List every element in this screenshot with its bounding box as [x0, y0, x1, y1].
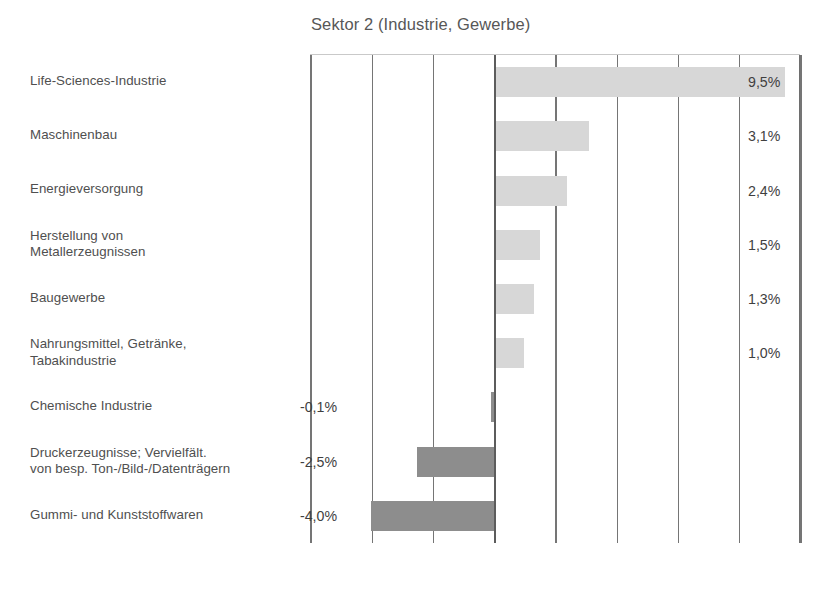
category-label-line-2: Tabakindustrie — [30, 353, 298, 370]
value-label: -0,1% — [300, 399, 337, 415]
zero-axis-line — [494, 55, 496, 543]
category-label-line-1: Maschinenbau — [30, 127, 117, 142]
value-label: -2,5% — [300, 454, 337, 470]
value-label: 1,0% — [748, 345, 780, 361]
category-label-line-1: Druckerzeugnisse; Vervielfält. — [30, 445, 207, 460]
chart-row: Herstellung vonMetallerzeugnissen1,5% — [0, 218, 835, 272]
bar-positive — [494, 338, 525, 368]
value-label: 3,1% — [748, 128, 780, 144]
category-label-line-2: Metallerzeugnissen — [30, 244, 298, 261]
chart-title: Sektor 2 (Industrie, Gewerbe) — [311, 15, 530, 34]
chart-row: Maschinenbau3,1% — [0, 109, 835, 163]
category-label-line-1: Baugewerbe — [30, 290, 105, 305]
category-label: Maschinenbau — [30, 127, 298, 144]
category-label-line-1: Energieversorgung — [30, 181, 143, 196]
category-label-line-1: Herstellung von — [30, 228, 123, 243]
bar-negative — [417, 447, 494, 477]
category-label: Herstellung vonMetallerzeugnissen — [30, 228, 298, 261]
value-label: -4,0% — [300, 508, 337, 524]
bar-negative — [371, 501, 494, 531]
chart-row: Druckerzeugnisse; Vervielfält.von besp. … — [0, 435, 835, 489]
chart-row: Energieversorgung2,4% — [0, 163, 835, 217]
category-label-line-1: Life-Sciences-Industrie — [30, 73, 166, 88]
chart-row: Baugewerbe1,3% — [0, 272, 835, 326]
value-label: 1,5% — [748, 237, 780, 253]
chart-row: Life-Sciences-Industrie9,5% — [0, 55, 835, 109]
category-label: Druckerzeugnisse; Vervielfält.von besp. … — [30, 445, 298, 478]
value-label: 2,4% — [748, 183, 780, 199]
bar-chart-figure: Sektor 2 (Industrie, Gewerbe) Life-Scien… — [0, 0, 835, 594]
bar-positive — [494, 176, 568, 206]
category-label: Life-Sciences-Industrie — [30, 73, 298, 90]
value-label: 9,5% — [748, 74, 780, 90]
category-label-line-1: Nahrungsmittel, Getränke, — [30, 336, 186, 351]
category-label: Chemische Industrie — [30, 398, 298, 415]
chart-row: Nahrungsmittel, Getränke,Tabakindustrie1… — [0, 326, 835, 380]
category-label: Gummi- und Kunststoffwaren — [30, 507, 298, 524]
category-label-line-1: Gummi- und Kunststoffwaren — [30, 507, 203, 522]
value-label: 1,3% — [748, 291, 780, 307]
chart-row: Gummi- und Kunststoffwaren-4,0% — [0, 489, 835, 543]
bar-positive — [494, 230, 540, 260]
category-label: Energieversorgung — [30, 181, 298, 198]
bar-positive — [494, 67, 785, 97]
category-label-line-2: von besp. Ton-/Bild-/Datenträgern — [30, 461, 298, 478]
category-label-line-1: Chemische Industrie — [30, 398, 152, 413]
category-label: Baugewerbe — [30, 290, 298, 307]
chart-row: Chemische Industrie-0,1% — [0, 380, 835, 434]
bar-positive — [494, 121, 589, 151]
category-label: Nahrungsmittel, Getränke,Tabakindustrie — [30, 336, 298, 369]
bar-positive — [494, 284, 534, 314]
